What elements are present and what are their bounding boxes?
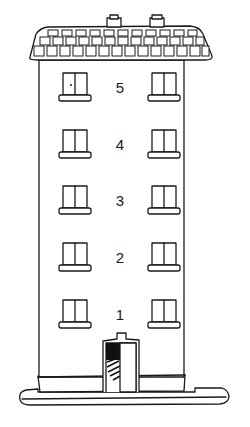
- window-right: [148, 130, 180, 158]
- floor-number-2: 2: [110, 250, 130, 266]
- window-left: [59, 300, 91, 328]
- floor-number-3: 3: [110, 193, 130, 209]
- building-facade: [39, 60, 184, 377]
- window-left: [59, 73, 91, 101]
- window-right: [148, 73, 180, 101]
- floor-number-1: 1: [110, 307, 130, 323]
- window-left: [59, 243, 91, 271]
- window-left: [59, 186, 91, 214]
- window-handle-icon: [70, 84, 72, 86]
- window-right: [148, 243, 180, 271]
- entrance-door: [103, 333, 139, 392]
- window-right: [148, 300, 180, 328]
- building-illustration: [0, 0, 250, 427]
- window-left: [59, 130, 91, 158]
- floor-number-5: 5: [110, 80, 130, 96]
- window-right: [148, 186, 180, 214]
- floor-number-4: 4: [110, 137, 130, 153]
- tiled-roof: [30, 15, 212, 60]
